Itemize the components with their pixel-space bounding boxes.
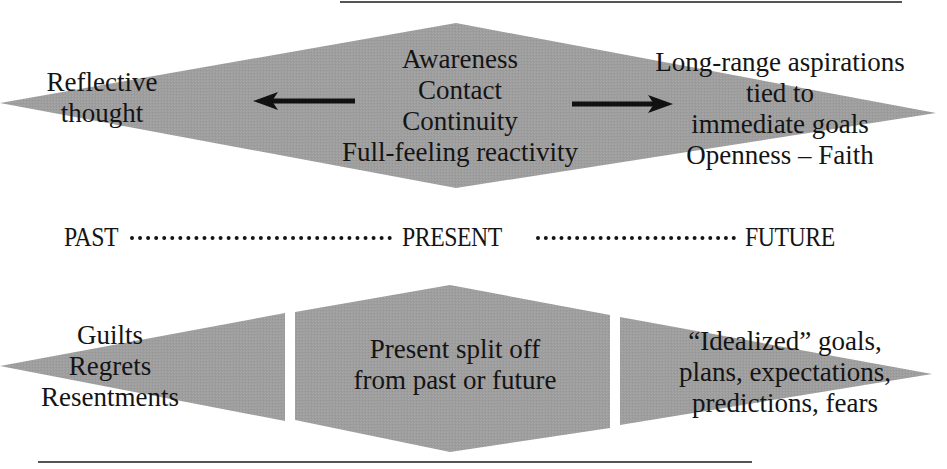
present-split-label: Present split off from past or future bbox=[330, 334, 580, 396]
label-line: plans, expectations, bbox=[640, 357, 930, 388]
timeline-future-label: FUTURE bbox=[745, 222, 835, 252]
label-line: Awareness bbox=[330, 44, 590, 75]
label-line: immediate goals bbox=[630, 109, 930, 140]
label-line: Full-feeling reactivity bbox=[330, 137, 590, 168]
timeline: PAST PRESENT FUTURE bbox=[0, 218, 947, 258]
label-line: Guilts bbox=[20, 320, 200, 351]
label-line: Regrets bbox=[20, 351, 200, 382]
label-line: tied to bbox=[630, 78, 930, 109]
label-line: Resentments bbox=[20, 382, 200, 413]
label-line: Present split off bbox=[330, 334, 580, 365]
guilts-regrets-label: Guilts Regrets Resentments bbox=[20, 320, 200, 413]
timeline-dots-past-present bbox=[130, 236, 392, 240]
label-line: thought bbox=[22, 98, 182, 129]
label-line: “Idealized” goals, bbox=[640, 326, 930, 357]
timeline-present-label: PRESENT bbox=[402, 222, 502, 252]
label-line: Openness – Faith bbox=[630, 140, 930, 171]
present-qualities-label: Awareness Contact Continuity Full-feelin… bbox=[330, 44, 590, 168]
label-line: predictions, fears bbox=[640, 388, 930, 419]
label-line: Reflective bbox=[22, 67, 182, 98]
timeline-dots-present-future bbox=[536, 236, 736, 240]
idealized-goals-label: “Idealized” goals, plans, expectations, … bbox=[640, 326, 930, 419]
label-line: from past or future bbox=[330, 365, 580, 396]
future-aspirations-label: Long-range aspirations tied to immediate… bbox=[630, 47, 930, 171]
label-line: Continuity bbox=[330, 106, 590, 137]
label-line: Contact bbox=[330, 75, 590, 106]
label-line: Long-range aspirations bbox=[630, 47, 930, 78]
timeline-past-label: PAST bbox=[64, 222, 118, 252]
reflective-thought-label: Reflective thought bbox=[22, 67, 182, 129]
